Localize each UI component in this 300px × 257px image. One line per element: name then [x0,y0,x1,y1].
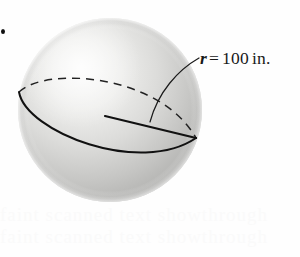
radius-variable: r [200,48,208,68]
sphere-diagram-canvas [0,0,300,257]
sphere-figure: r=100in. faint scanned text showthrough … [0,0,300,257]
equals-sign: = [208,48,222,68]
radius-label: r=100in. [200,48,271,68]
sphere-soft-edge [18,18,202,202]
radius-unit: in. [252,48,271,68]
radius-value: 100 [222,48,252,68]
margin-bullet-marker [1,29,5,34]
